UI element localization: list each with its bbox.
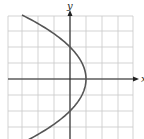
x-axis-label: x: [141, 73, 144, 84]
x-axis-arrow-icon: [133, 77, 139, 82]
y-axis-label: y: [66, 0, 73, 11]
parabola-graph: x y: [0, 0, 144, 139]
